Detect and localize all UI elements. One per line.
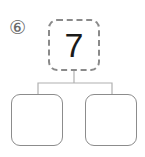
whole-number-value: 7 bbox=[65, 26, 84, 65]
part-left-box[interactable] bbox=[11, 94, 63, 146]
part-right-box[interactable] bbox=[85, 94, 137, 146]
whole-number-box: 7 bbox=[48, 19, 100, 71]
